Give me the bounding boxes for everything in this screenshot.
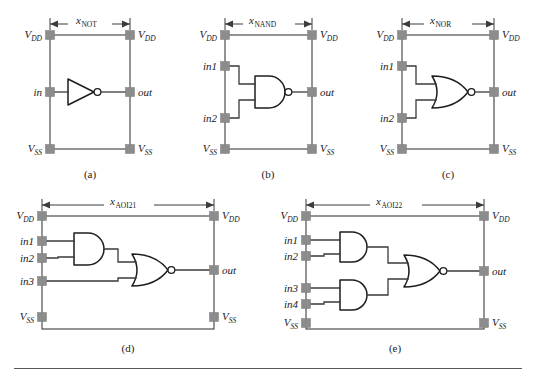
label-vdd-left-not: VDD (24, 28, 42, 43)
cell-panel-aoi21: xAOI21 (14, 188, 264, 368)
label-vdd-left-aoi21: VDD (16, 209, 34, 224)
pin-vdd-left-not[interactable] (46, 31, 55, 40)
caption-nand: (b) (262, 168, 275, 181)
pin-in2-nand[interactable] (221, 114, 230, 123)
pin-in-not[interactable] (46, 88, 55, 97)
nand-cell-diagram: xNAND VDD (181, 4, 353, 184)
cell-panel-nand: xNAND VDD (181, 4, 353, 184)
label-in2-nand: in2 (203, 112, 218, 124)
gate-nand (255, 76, 292, 108)
pin-vdd-left-nand[interactable] (221, 31, 230, 40)
label-vdd-right-nand: VDD (320, 28, 338, 43)
label-in-not: in (33, 86, 42, 98)
pin-vdd-right-aoi22[interactable] (480, 212, 489, 221)
pin-vss-right-aoi21[interactable] (210, 313, 219, 322)
label-in2-nor: in2 (380, 112, 395, 124)
label-vss-left-nor: VSS (380, 142, 394, 157)
not-cell-diagram: xNOT VDD VDD (6, 4, 178, 184)
label-in1-aoi22: in1 (284, 234, 298, 246)
label-vss-right-not: VSS (138, 142, 152, 157)
label-in3-aoi22: in3 (284, 282, 299, 294)
nor-cell-diagram: xNOR VDD VD (356, 4, 534, 184)
pin-in1-aoi21[interactable] (38, 237, 47, 246)
label-vdd-left-nand: VDD (199, 28, 217, 43)
label-vss-right-nand: VSS (320, 142, 334, 157)
pin-out-nor[interactable] (490, 88, 499, 97)
bottom-divider-rule (14, 368, 522, 369)
pin-in2-nor[interactable] (398, 114, 407, 123)
label-vdd-right-aoi21: VDD (222, 209, 240, 224)
gate-and-top-aoi22 (340, 232, 367, 262)
label-vss-left-aoi22: VSS (284, 316, 298, 331)
pin-in1-aoi22[interactable] (302, 236, 311, 245)
pin-vdd-right-nand[interactable] (308, 31, 317, 40)
gate-nor (432, 76, 475, 108)
pin-in3-aoi21[interactable] (38, 277, 47, 286)
logic-cell-figure: xNOT VDD VDD (0, 0, 537, 378)
pin-out-nand[interactable] (308, 88, 317, 97)
pin-vdd-left-nor[interactable] (398, 31, 407, 40)
pin-out-not[interactable] (126, 88, 135, 97)
wires-aoi21 (42, 241, 214, 281)
pin-vss-left-nor[interactable] (398, 145, 407, 154)
label-in3-aoi21: in3 (20, 275, 35, 287)
dimension-arrow-nor: xNOR (402, 14, 494, 30)
pin-vss-left-aoi21[interactable] (38, 313, 47, 322)
aoi21-cell-diagram: xAOI21 (14, 188, 264, 368)
pin-in4-aoi22[interactable] (302, 300, 311, 309)
pin-vss-right-nor[interactable] (490, 145, 499, 154)
pin-vdd-left-aoi22[interactable] (302, 212, 311, 221)
gate-and-aoi21 (74, 233, 104, 265)
pin-in1-nand[interactable] (221, 62, 230, 71)
cell-panel-not: xNOT VDD VDD (6, 4, 178, 184)
label-vdd-right-aoi22: VDD (492, 209, 510, 224)
label-out-not: out (138, 86, 153, 98)
caption-nor: (c) (442, 168, 455, 181)
label-out-nor: out (502, 86, 517, 98)
pin-vss-left-nand[interactable] (221, 145, 230, 154)
label-out-aoi21: out (222, 264, 237, 276)
gate-nor-aoi22 (404, 255, 447, 287)
gate-not-inverter (68, 79, 101, 105)
pin-in3-aoi22[interactable] (302, 284, 311, 293)
label-vdd-left-aoi22: VDD (280, 209, 298, 224)
pin-vss-left-not[interactable] (46, 145, 55, 154)
label-in1-aoi21: in1 (20, 235, 34, 247)
pin-vss-right-aoi22[interactable] (480, 319, 489, 328)
pin-vdd-right-aoi21[interactable] (210, 212, 219, 221)
pin-in2-aoi22[interactable] (302, 252, 311, 261)
label-in2-aoi22: in2 (284, 250, 299, 262)
label-vss-left-nand: VSS (203, 142, 217, 157)
gate-nor-aoi21 (132, 254, 175, 286)
label-out-nand: out (320, 86, 335, 98)
pin-out-aoi21[interactable] (210, 266, 219, 275)
dimension-arrow-nand: xNAND (225, 14, 312, 30)
pin-vdd-right-nor[interactable] (490, 31, 499, 40)
label-vdd-left-nor: VDD (376, 28, 394, 43)
cell-panel-aoi22: xAOI22 (278, 188, 533, 368)
pin-vdd-right-not[interactable] (126, 31, 135, 40)
label-in1-nand: in1 (203, 60, 217, 72)
label-out-aoi22: out (492, 265, 507, 277)
label-in2-aoi21: in2 (20, 252, 35, 264)
label-vss-right-aoi22: VSS (492, 316, 506, 331)
cell-boundary-aoi22 (306, 216, 484, 329)
caption-aoi22: (e) (389, 342, 402, 355)
pin-in1-nor[interactable] (398, 62, 407, 71)
label-vdd-right-not: VDD (138, 28, 156, 43)
label-vdd-right-nor: VDD (502, 28, 520, 43)
pin-vss-right-not[interactable] (126, 145, 135, 154)
wires-aoi22 (306, 240, 484, 304)
pin-out-aoi22[interactable] (480, 267, 489, 276)
label-vss-right-aoi21: VSS (222, 310, 236, 325)
label-vss-left-not: VSS (28, 142, 42, 157)
label-vss-right-nor: VSS (502, 142, 516, 157)
caption-aoi21: (d) (122, 342, 135, 355)
pin-vdd-left-aoi21[interactable] (38, 212, 47, 221)
pin-vss-left-aoi22[interactable] (302, 319, 311, 328)
caption-not: (a) (84, 168, 97, 181)
pin-in2-aoi21[interactable] (38, 254, 47, 263)
dimension-arrow-aoi22: xAOI22 (306, 195, 484, 211)
pin-vss-right-nand[interactable] (308, 145, 317, 154)
dimension-arrow-aoi21: xAOI21 (42, 195, 214, 211)
